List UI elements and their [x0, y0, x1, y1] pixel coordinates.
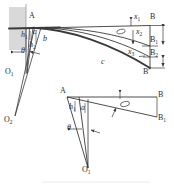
label-point-B: B [150, 13, 155, 21]
label-upper-h1: h1 [21, 31, 28, 39]
label-x2: x2 [136, 28, 142, 36]
label-point-B2: B2 [150, 49, 158, 57]
label-curve-a: a [33, 28, 37, 36]
label-lower-O1: O1 [82, 166, 91, 174]
label-lower-A: A [60, 87, 66, 95]
label-curve-b: b [43, 35, 47, 43]
figure-root: A h1 h2 a b c θ O1 O2 x1 x2 x3 B B1 B2 B… [0, 0, 174, 187]
label-lower-h1: h1 [69, 103, 76, 111]
label-lower-a: a [81, 104, 85, 112]
label-upper-h2: h2 [29, 41, 36, 49]
label-upper-O1: O1 [5, 68, 14, 76]
label-point-B1: B1 [150, 36, 158, 44]
label-x3: x3 [128, 48, 134, 56]
label-x1: x1 [134, 13, 140, 21]
label-point-Bprime: B′ [143, 68, 150, 76]
label-upper-theta: θ [21, 47, 25, 55]
figure-drawing [0, 0, 174, 187]
label-curve-c: c [101, 58, 105, 66]
label-upper-A: A [29, 12, 35, 20]
label-lower-theta: θ [67, 124, 71, 132]
label-upper-O2: O2 [4, 116, 13, 124]
label-lower-B1: B1 [158, 114, 166, 122]
label-lower-B: B [158, 91, 163, 99]
